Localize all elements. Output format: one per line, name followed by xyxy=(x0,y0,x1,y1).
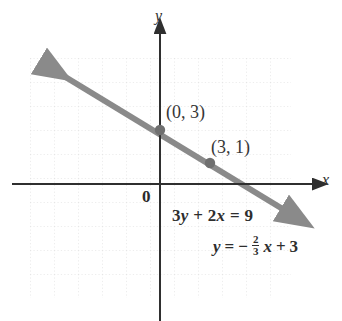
standard-coef-x: 2 xyxy=(208,206,217,225)
standard-var-x: x xyxy=(217,206,226,225)
point-marker-0-3 xyxy=(155,125,165,135)
slope-plus: + xyxy=(276,238,286,255)
x-axis-label: x xyxy=(322,172,329,188)
slope-denominator: 3 xyxy=(252,245,260,257)
graph-canvas xyxy=(0,0,342,321)
coordinate-graph-figure: (0, 3) (3, 1) 0 y x 3y + 2x = 9 y = − 2 … xyxy=(0,0,342,321)
slope-equals: = xyxy=(225,238,235,255)
point-label-3-1: (3, 1) xyxy=(211,138,250,156)
slope-var-x: x xyxy=(263,238,272,255)
slope-fraction: 2 3 xyxy=(252,234,260,257)
equation-slope-intercept: y = − 2 3 x + 3 xyxy=(213,235,298,258)
point-label-0-3: (0, 3) xyxy=(166,103,205,121)
slope-var-y: y xyxy=(213,238,221,255)
standard-var-y: y xyxy=(181,206,189,225)
standard-equals: = xyxy=(230,206,240,225)
slope-intercept-constant: 3 xyxy=(290,238,299,255)
y-axis-label: y xyxy=(155,8,162,24)
slope-minus: − xyxy=(238,238,248,255)
equation-standard-form: 3y + 2x = 9 xyxy=(172,207,253,224)
standard-constant: 9 xyxy=(245,206,254,225)
point-marker-3-1 xyxy=(205,158,215,168)
slope-numerator: 2 xyxy=(252,234,260,245)
standard-plus: + xyxy=(193,206,203,225)
origin-label: 0 xyxy=(142,188,151,205)
standard-coef-y: 3 xyxy=(172,206,181,225)
